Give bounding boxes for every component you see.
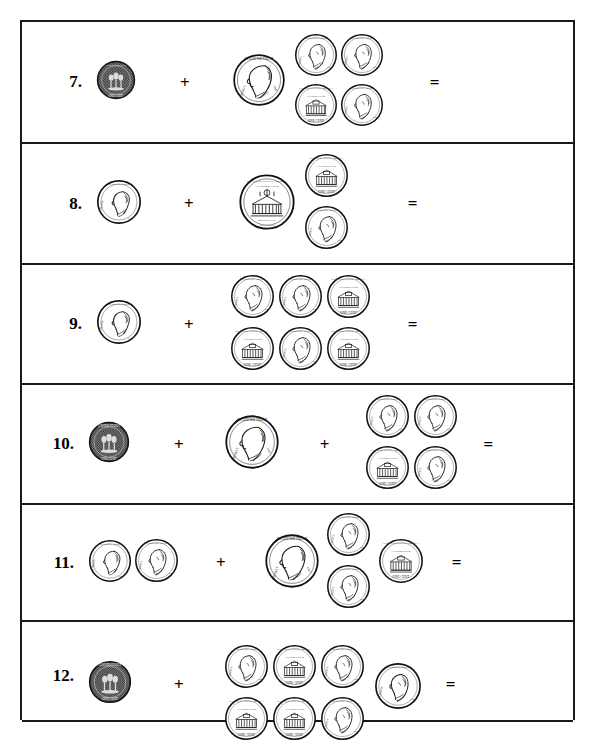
svg-text:IN GOD WE TRUST: IN GOD WE TRUST — [241, 277, 265, 280]
svg-text:1995: 1995 — [263, 308, 269, 311]
coin-dime: IN GOD WE TRUST LIBERTY 1994 — [96, 299, 142, 349]
svg-text:E PLURIBUS UNUM: E PLURIBUS UNUM — [237, 708, 256, 710]
coin-penny: IN GOD WE TRUST LIBERTY 1995 — [320, 644, 365, 693]
svg-text:1995: 1995 — [399, 428, 405, 431]
equals-operator: = — [446, 676, 456, 693]
svg-text:ONE CENT: ONE CENT — [392, 575, 410, 579]
equals-operator: = — [408, 195, 418, 212]
coin-penny: IN GOD WE TRUST LIBERTY 1995 — [304, 205, 349, 254]
svg-text:E PLURIBUS UNUM: E PLURIBUS UNUM — [391, 550, 410, 552]
svg-text:1994: 1994 — [128, 337, 134, 340]
svg-text:1995: 1995 — [327, 66, 333, 69]
svg-text:E PLURIBUS UNUM: E PLURIBUS UNUM — [285, 656, 304, 658]
coin-group: IN GOD WE TRUST LIBERTY 1994 — [96, 299, 146, 349]
coin-group-pennies: IN GOD WE TRUST LIBERTY 1995 — [365, 394, 461, 494]
svg-text:1995: 1995 — [257, 678, 263, 681]
coin-penny: IN GOD WE TRUST LIBERTY 1995 — [340, 83, 384, 131]
coin-group: IN GOD WE TRUST LIBERTY 1995 — [374, 662, 424, 714]
problem-number: 11. — [32, 553, 74, 573]
svg-text:FIVE CENTS: FIVE CENTS — [259, 222, 276, 226]
svg-text:E PLURIBUS UNUM: E PLURIBUS UNUM — [285, 708, 304, 710]
svg-text:UNITED STATES OF AMERICA: UNITED STATES OF AMERICA — [235, 330, 270, 333]
svg-text:ONE CENT: ONE CENT — [109, 94, 124, 98]
svg-text:IN GOD WE TRUST: IN GOD WE TRUST — [289, 329, 313, 332]
svg-text:UNITED STATES: UNITED STATES — [106, 64, 127, 67]
svg-text:ONE CENT: ONE CENT — [238, 733, 255, 737]
coin-penny-dark: UNITED STATES ONE CENT — [88, 421, 130, 467]
coin-penny: IN GOD WE TRUST LIBERTY 1995 — [326, 564, 371, 613]
coin-penny-reverse: UNITED STATES OF AMERICA E PLURIBUS UNUM… — [378, 538, 424, 588]
coin-group-pennies: IN GOD WE TRUST LIBERTY 1995 — [224, 644, 372, 744]
plus-operator: + — [174, 676, 184, 693]
svg-text:IN GOD WE TRUST: IN GOD WE TRUST — [424, 398, 448, 401]
svg-text:1995: 1995 — [337, 239, 343, 242]
svg-text:IN GOD WE TRUST: IN GOD WE TRUST — [385, 665, 410, 669]
svg-text:E PLURIBUS UNUM: E PLURIBUS UNUM — [339, 337, 358, 339]
plus-operator: + — [184, 195, 194, 212]
svg-text:IN GOD WE TRUST: IN GOD WE TRUST — [237, 418, 268, 422]
plus-operator: + — [216, 554, 226, 571]
svg-text:IN GOD WE TRUST: IN GOD WE TRUST — [235, 648, 259, 651]
svg-text:1994: 1994 — [128, 216, 134, 219]
svg-text:IN GOD WE TRUST: IN GOD WE TRUST — [337, 568, 361, 571]
coin-group-pennies: UNITED STATES OF AMERICA E PLURIBUS UNUM… — [304, 153, 352, 254]
svg-text:IN GOD WE TRUST: IN GOD WE TRUST — [337, 516, 361, 519]
svg-text:1995: 1995 — [353, 730, 359, 733]
svg-text:1995: 1995 — [373, 66, 379, 69]
problem-number: 8. — [40, 194, 82, 214]
svg-text:IN GOD WE TRUST: IN GOD WE TRUST — [100, 543, 121, 546]
svg-text:IN GOD WE TRUST: IN GOD WE TRUST — [315, 209, 339, 212]
svg-text:IN GOD WE TRUST: IN GOD WE TRUST — [244, 57, 273, 61]
coin-penny: IN GOD WE TRUST LIBERTY 1995 — [230, 274, 275, 323]
table-row: 9. — [22, 265, 573, 385]
coin-group: IN GOD WE TRUST LIBERTY 1997 — [224, 414, 282, 474]
coin-group-pennies: IN GOD WE TRUST LIBERTY 1995 — [230, 274, 378, 375]
svg-text:ONE CENT: ONE CENT — [318, 190, 335, 194]
table-row: 8. — [22, 144, 573, 265]
svg-text:UNITED STATES OF AMERICA: UNITED STATES OF AMERICA — [331, 278, 366, 281]
coin-penny-reverse: UNITED STATES OF AMERICA E PLURIBUS UNUM… — [294, 83, 338, 131]
svg-text:1995: 1995 — [373, 116, 379, 119]
equals-operator: = — [452, 554, 462, 571]
coin-group: IN GOD WE TRUST LIBERTY 1994 — [96, 179, 146, 229]
coin-group: UNITED STATES ONE CENT — [88, 660, 134, 708]
problem-number: 9. — [40, 314, 82, 334]
svg-text:IN GOD WE TRUST: IN GOD WE TRUST — [331, 700, 355, 703]
coin-group: UNITED STATES ONE CENT — [96, 60, 140, 104]
coin-nickel: IN GOD WE TRUST LIBERTY 1997 — [264, 533, 320, 593]
svg-text:UNITED STATES OF AMERICA: UNITED STATES OF AMERICA — [309, 157, 344, 160]
svg-text:UNITED STATES OF AMERICA: UNITED STATES OF AMERICA — [229, 700, 264, 703]
svg-text:1995: 1995 — [447, 479, 453, 482]
svg-text:ONE CENT: ONE CENT — [101, 457, 117, 461]
svg-text:IN GOD WE TRUST: IN GOD WE TRUST — [277, 537, 308, 541]
coin-penny: IN GOD WE TRUST LIBERTY 1995 — [294, 33, 338, 81]
svg-text:ONE CENT: ONE CENT — [244, 362, 261, 366]
svg-text:MONTICELLO: MONTICELLO — [258, 218, 275, 221]
svg-text:E PLURIBUS UNUM: E PLURIBUS UNUM — [339, 285, 358, 287]
coin-penny: IN GOD WE TRUST LIBERTY 1995 — [278, 274, 323, 323]
svg-text:ONE CENT: ONE CENT — [380, 482, 397, 486]
coin-penny-reverse: UNITED STATES OF AMERICA E PLURIBUS UNUM… — [230, 326, 275, 375]
svg-text:IN GOD WE TRUST: IN GOD WE TRUST — [108, 303, 130, 306]
coin-penny: IN GOD WE TRUST LIBERTY 1995 — [326, 512, 371, 561]
svg-text:E PLURIBUS UNUM: E PLURIBUS UNUM — [307, 95, 325, 97]
svg-text:E PLURIBUS UNUM: E PLURIBUS UNUM — [379, 457, 398, 459]
coin-dime: IN GOD WE TRUST LIBERTY 1994 — [96, 179, 142, 229]
table-row: 10. UNITED STATES ONE CENT — [22, 385, 573, 505]
coin-penny: IN GOD WE TRUST LIBERTY 1995 — [320, 696, 365, 744]
coin-penny: IN GOD WE TRUST LIBERTY 1995 — [365, 394, 410, 443]
svg-text:1995: 1995 — [410, 698, 416, 701]
svg-text:1995: 1995 — [353, 678, 359, 681]
svg-text:IN GOD WE TRUST: IN GOD WE TRUST — [376, 398, 400, 401]
equals-operator: = — [483, 436, 493, 453]
table-row: 11. IN GOD WE TR — [22, 505, 573, 622]
table-row: 7. UNITED STATES ONE CENT — [22, 22, 573, 144]
svg-text:IN GOD WE TRUST: IN GOD WE TRUST — [289, 277, 313, 280]
coin-nickel: IN GOD WE TRUST LIBERTY 1997 — [232, 53, 286, 111]
svg-text:1995: 1995 — [311, 308, 317, 311]
coin-penny-reverse: UNITED STATES OF AMERICA E PLURIBUS UNUM… — [365, 445, 410, 494]
coin-dime: IN GOD WE TRUST LIBERTY 1994 — [88, 539, 132, 587]
problem-number: 12. — [32, 666, 74, 686]
svg-text:ONE CENT: ONE CENT — [340, 310, 357, 314]
coin-penny-dark: UNITED STATES ONE CENT — [96, 60, 136, 104]
